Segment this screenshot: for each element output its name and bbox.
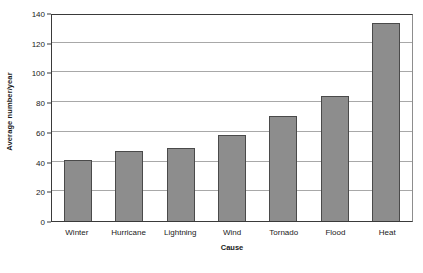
bar-slot [103,15,154,221]
x-axis-tick-label: Tornado [258,224,310,240]
x-axis-title: Cause [51,243,413,252]
y-axis-tick-label: 0 [41,218,45,227]
plot-area [51,14,413,222]
bar-flood[interactable] [321,96,349,221]
bar-slot [361,15,412,221]
bar-heat[interactable] [372,23,400,221]
y-axis-tick-label: 20 [36,188,45,197]
bar-tornado[interactable] [269,116,297,221]
bars-layer [52,15,412,221]
bar-winter[interactable] [64,160,92,221]
y-axis-tick-label: 40 [36,158,45,167]
y-axis-title: Average number/year [0,0,18,222]
y-axis-tick-labels: 020406080100120140 [18,0,51,273]
x-axis-tick-labels: WinterHurricaneLightningWindTornadoFlood… [51,224,413,240]
y-axis-title-text: Average number/year [5,72,14,150]
bar-chart-figure: Average number/year 020406080100120140 W… [0,0,423,273]
x-axis-tick-label: Lightning [154,224,206,240]
bar-slot [52,15,103,221]
bar-wind[interactable] [218,135,246,221]
x-axis-tick-label: Flood [310,224,362,240]
x-axis-tick-label: Hurricane [103,224,155,240]
y-axis-tick-label: 100 [32,69,45,78]
bar-slot [155,15,206,221]
y-axis-tick-label: 80 [36,99,45,108]
y-axis-tick-label: 140 [32,10,45,19]
y-axis-tick-label: 120 [32,39,45,48]
bar-slot [309,15,360,221]
bar-lightning[interactable] [167,148,195,221]
x-axis-tick-label: Winter [51,224,103,240]
bar-hurricane[interactable] [115,151,143,221]
bar-slot [258,15,309,221]
bar-slot [206,15,257,221]
y-axis-tick-label: 60 [36,128,45,137]
x-axis-tick-label: Heat [361,224,413,240]
x-axis-tick-label: Wind [206,224,258,240]
